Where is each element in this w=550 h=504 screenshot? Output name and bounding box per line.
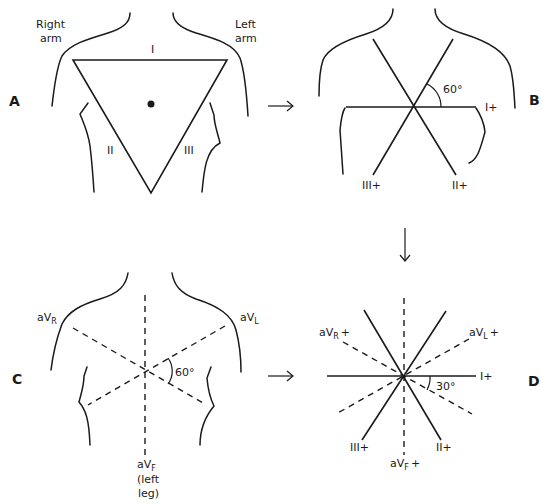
lead-iii-label: III — [184, 144, 194, 157]
panel-d: 30° aVR+ aVL+ aVF+ I+ II+ III+ D — [319, 298, 540, 472]
torso-outline — [200, 367, 214, 445]
panel-letter-a: A — [9, 93, 20, 109]
avl-positive-label: aVL+ — [469, 326, 499, 341]
torso-outline — [469, 108, 485, 163]
avf-label: aVF — [137, 458, 156, 473]
angle-label: 30° — [436, 380, 456, 393]
left-leg-label: leg) — [138, 487, 159, 500]
left-arm-label: arm — [235, 32, 257, 45]
panel-c: 60° aVR aVL aVF (left leg) C — [12, 273, 259, 500]
angle-label: 60° — [175, 366, 195, 379]
lead-ii-positive-label: II+ — [436, 441, 452, 454]
torso-outline — [79, 367, 90, 445]
arrow-c-to-d — [268, 371, 293, 381]
lead-i-positive-label: I+ — [485, 101, 497, 114]
panel-b: 60° I+ II+ III+ B — [319, 9, 540, 192]
arrow-b-to-d — [400, 228, 410, 261]
left-leg-label: (left — [137, 473, 160, 486]
torso-outline — [340, 108, 345, 174]
torso-outline — [202, 103, 220, 192]
arrow-a-to-b — [268, 101, 293, 111]
angle-arc — [168, 358, 172, 384]
panel-letter-d: D — [528, 373, 540, 389]
lead-ii-label: II — [107, 144, 114, 157]
lead-ii-positive-label: II+ — [452, 179, 468, 192]
panel-letter-c: C — [12, 371, 22, 387]
avl-label: aVL — [240, 311, 259, 326]
avr-label: aVR — [37, 311, 57, 326]
lead-iii-positive-label: III+ — [362, 179, 381, 192]
torso-outline — [80, 103, 94, 192]
right-arm-label: Right — [36, 18, 66, 31]
avr-positive-label: aVR+ — [319, 326, 350, 341]
lead-i-label: I — [151, 43, 154, 56]
angle-arc — [427, 376, 430, 390]
avr-axis — [343, 342, 472, 414]
avf-positive-label: aVF+ — [390, 457, 420, 472]
torso-outline — [172, 273, 241, 372]
lead-iii-positive-label: III+ — [350, 441, 369, 454]
panel-letter-b: B — [529, 92, 540, 108]
lead-i-positive-label: I+ — [480, 370, 492, 383]
angle-label: 60° — [443, 83, 463, 96]
panel-a: Right arm Left arm I II III A — [9, 13, 257, 193]
avl-axis — [88, 326, 225, 405]
torso-outline — [51, 273, 128, 370]
right-arm-label: arm — [40, 32, 62, 45]
ecg-lead-diagram: Right arm Left arm I II III A 60° I+ II+… — [0, 0, 550, 504]
left-arm-label: Left — [235, 18, 256, 31]
heart-dot — [148, 101, 155, 108]
angle-arc — [427, 84, 441, 107]
